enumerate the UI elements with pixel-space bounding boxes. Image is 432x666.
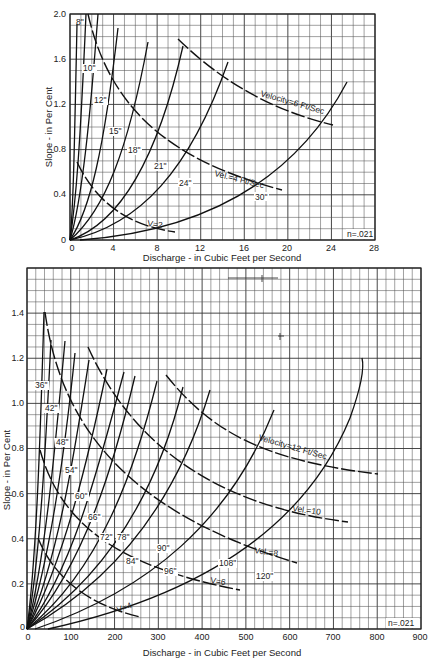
bottom-y-tick: 1.2 [11, 353, 24, 363]
grid-marks [228, 275, 284, 340]
top-x-tick: 28 [369, 243, 379, 253]
top-y-tick: 1.6 [53, 54, 66, 64]
label-v8: Vel.=8 [254, 545, 279, 558]
label-12in: 12" [94, 95, 106, 105]
curve-v10 [88, 347, 348, 522]
label-21in: 21" [154, 161, 166, 171]
label-42in: 42" [45, 403, 57, 413]
bottom-y-tick: 0.2 [11, 579, 24, 589]
curve-66in [27, 369, 107, 629]
top-roughness-note: n=.021 [347, 229, 374, 239]
label-10in: 10" [83, 63, 95, 73]
top-y-tick: 0 [61, 235, 66, 245]
label-v2: V=2 [147, 218, 164, 230]
bottom-x-tick: 900 [412, 632, 427, 642]
label-24in: 24" [179, 178, 191, 188]
label-v4: V=4 [115, 600, 133, 615]
label-48in: 48" [56, 437, 68, 447]
label-78in: 78" [117, 532, 129, 542]
curve-120in-tail [350, 358, 363, 418]
bottom-x-tick: 800 [369, 632, 384, 642]
bottom-x-tick: 400 [194, 632, 209, 642]
label-84in: 84" [126, 556, 138, 566]
top-chart: 2.0 1.6 1.2 0.8 0.4 0 0 4 8 12 16 20 24 … [43, 9, 379, 263]
pipe-flow-charts: 2.0 1.6 1.2 0.8 0.4 0 0 4 8 12 16 20 24 … [0, 0, 432, 666]
label-15in: 15" [109, 126, 121, 136]
label-60in: 60" [75, 491, 87, 501]
label-66in: 66" [88, 512, 100, 522]
label-v6: V=6 [210, 575, 227, 587]
label-96in: 96" [164, 566, 176, 576]
label-54in: 54" [65, 465, 77, 475]
label-30in: 30" [255, 192, 267, 202]
bottom-y-tick: 0.6 [11, 489, 24, 499]
bottom-y-tick: 0.8 [11, 443, 24, 453]
bottom-x-tick: 600 [282, 632, 297, 642]
label-36in: 36" [35, 380, 47, 390]
label-v12: Velocity=12 Ft/Sec [257, 432, 328, 461]
bottom-y-tick: 1.4 [11, 308, 24, 318]
bottom-chart: 1.4 1.2 1.0 0.8 0.6 0.4 0.2 0 0 100 200 … [1, 268, 428, 658]
bottom-x-tick: 500 [238, 632, 253, 642]
label-120in: 120" [256, 571, 273, 581]
bottom-roughness-note: n=.021 [388, 618, 415, 628]
bottom-x-tick: 200 [107, 632, 122, 642]
top-y-tick: 0.8 [53, 144, 66, 154]
bottom-y-tick: 1.0 [11, 398, 24, 408]
label-v4: Vel.=4 Ft/Sec [214, 168, 266, 190]
label-90in: 90" [157, 543, 169, 553]
top-velocity-labels: V=2 Vel.=4 Ft/Sec Velocity=6 Ft/Sec [147, 88, 327, 230]
top-x-tick: 0 [69, 243, 74, 253]
bottom-x-tick: 100 [63, 632, 78, 642]
bottom-x-tick: 300 [150, 632, 165, 642]
top-y-axis-title: Slope - in Per Cent [43, 87, 54, 168]
bottom-x-axis-title: Discharge - in Cubic Feet per Second [143, 647, 301, 658]
top-y-tick: 1.2 [53, 99, 66, 109]
label-8in: 8" [76, 17, 84, 27]
label-72in: 72" [100, 532, 112, 542]
top-x-axis-title: Discharge - in Cubic Feet per Second [143, 252, 301, 263]
bottom-x-tick: 700 [325, 632, 340, 642]
bottom-y-tick: 0.4 [11, 534, 24, 544]
bottom-x-tick: 0 [25, 632, 30, 642]
bottom-y-tick: 0 [20, 622, 25, 632]
top-y-tick: 2.0 [53, 9, 66, 19]
top-x-tick: 4 [110, 243, 115, 253]
top-y-tick: 0.4 [53, 189, 66, 199]
bottom-chart-grid [27, 268, 421, 629]
top-x-tick: 24 [326, 243, 336, 253]
bottom-y-axis-title: Slope - in Per Cent [1, 430, 12, 511]
label-18in: 18" [128, 145, 140, 155]
label-108in: 108" [219, 558, 236, 568]
